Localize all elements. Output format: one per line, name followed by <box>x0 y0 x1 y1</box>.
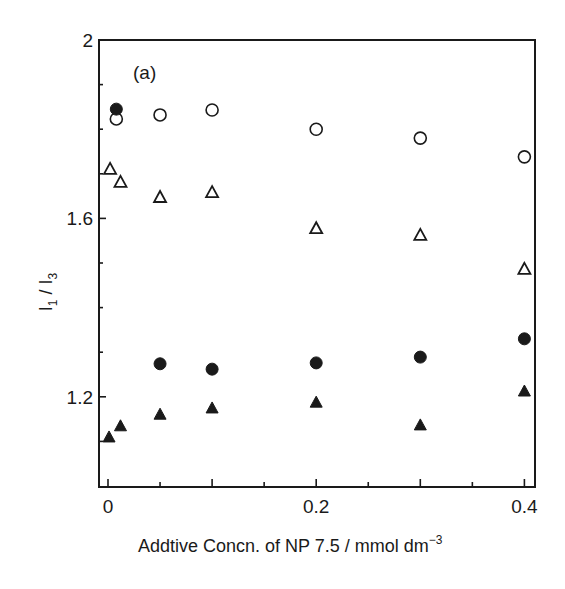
x-tick-label: 0 <box>103 496 114 517</box>
filled-circle-marker <box>154 358 166 370</box>
y-axis-label-sep: / I <box>36 279 56 299</box>
open-triangle-marker <box>154 191 166 202</box>
open-circle-marker <box>414 132 426 144</box>
data-markers <box>103 103 530 442</box>
x-axis-ticks <box>108 479 524 487</box>
open-triangle-marker <box>104 163 116 174</box>
open-triangle-marker <box>206 186 218 197</box>
open-triangle-marker <box>310 222 322 233</box>
x-axis-label-text: Addtive Concn. of NP 7.5 / mmol dm <box>138 536 429 556</box>
open-circle-marker <box>154 109 166 121</box>
x-axis-tick-labels: 00.20.4 <box>103 496 538 517</box>
scatter-chart: 00.20.4 21.61.2 (a) Addtive Concn. of NP… <box>0 0 565 589</box>
filled-circle-marker <box>518 333 530 345</box>
filled-circle-marker <box>414 351 426 363</box>
open-circle-marker <box>518 151 530 163</box>
plot-frame <box>99 40 535 487</box>
y-axis-label-sub2: 3 <box>46 272 60 279</box>
filled-triangle-marker <box>414 419 426 430</box>
open-triangle-marker <box>518 263 530 274</box>
x-tick-label: 0.2 <box>303 496 329 517</box>
y-tick-label: 1.6 <box>67 208 93 229</box>
filled-triangle-marker <box>103 431 115 442</box>
open-triangle-marker <box>114 176 126 187</box>
filled-triangle-marker <box>518 385 530 396</box>
y-axis-label: I1 / I3 <box>36 272 60 311</box>
filled-triangle-marker <box>114 420 126 431</box>
y-tick-label: 2 <box>82 30 93 51</box>
y-axis-tick-labels: 21.61.2 <box>67 30 93 408</box>
filled-circle-marker <box>310 357 322 369</box>
y-tick-label: 1.2 <box>67 387 93 408</box>
filled-circle-marker <box>206 363 218 375</box>
filled-triangle-marker <box>154 408 166 419</box>
open-circle-marker <box>206 104 218 116</box>
x-axis-label: Addtive Concn. of NP 7.5 / mmol dm−3 <box>138 533 443 556</box>
open-circle-marker <box>310 123 322 135</box>
open-triangle-marker <box>414 229 426 240</box>
filled-triangle-marker <box>310 396 322 407</box>
filled-triangle-marker <box>206 402 218 413</box>
x-axis-label-superscript: −3 <box>429 533 443 547</box>
panel-label: (a) <box>133 62 156 83</box>
y-axis-ticks <box>99 40 106 441</box>
x-tick-label: 0.4 <box>511 496 538 517</box>
filled-circle-marker <box>110 103 122 115</box>
